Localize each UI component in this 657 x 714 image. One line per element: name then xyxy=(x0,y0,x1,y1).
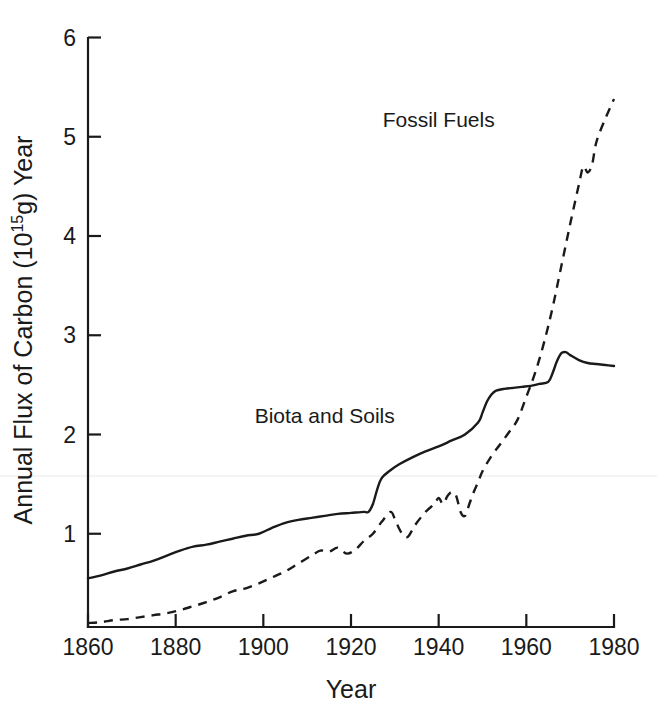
y-tick-label-6: 6 xyxy=(63,25,76,51)
series-fossil-fuels-line xyxy=(88,99,614,623)
x-axis-tick-labels: 1860188019001920194019601980 xyxy=(62,634,639,660)
annotation-fossil-fuels: Fossil Fuels xyxy=(383,108,495,131)
x-tick-label-1940: 1940 xyxy=(413,634,464,660)
y-axis-title: Annual Flux of Carbon (1015g) Year xyxy=(9,136,37,525)
y-axis-tick-labels: 123456 xyxy=(63,25,76,547)
x-axis-ticks xyxy=(88,614,614,627)
y-axis-title-head: Annual Flux of Carbon (10 xyxy=(9,233,37,525)
x-axis-title: Year xyxy=(326,675,377,703)
y-axis-title-superscript: 15 xyxy=(9,215,26,233)
chart-svg: 123456 1860188019001920194019601980 Foss… xyxy=(0,0,657,714)
x-tick-label-1880: 1880 xyxy=(150,634,201,660)
x-tick-label-1900: 1900 xyxy=(238,634,289,660)
series-biota-and-soils-line xyxy=(88,352,614,579)
chart-figure: 123456 1860188019001920194019601980 Foss… xyxy=(0,0,657,714)
y-axis-ticks xyxy=(88,38,101,534)
y-tick-label-4: 4 xyxy=(63,223,76,249)
annotation-biota-and-soils: Biota and Soils xyxy=(255,404,395,427)
x-tick-label-1920: 1920 xyxy=(325,634,376,660)
axes-group: 123456 1860188019001920194019601980 xyxy=(62,25,639,661)
series-group xyxy=(88,99,614,623)
y-tick-label-1: 1 xyxy=(63,521,76,547)
y-axis-title-tail: g) Year xyxy=(9,136,37,215)
x-tick-label-1960: 1960 xyxy=(501,634,552,660)
y-tick-label-3: 3 xyxy=(63,322,76,348)
y-tick-label-2: 2 xyxy=(63,422,76,448)
x-tick-label-1860: 1860 xyxy=(62,634,113,660)
y-tick-label-5: 5 xyxy=(63,124,76,150)
x-tick-label-1980: 1980 xyxy=(588,634,639,660)
